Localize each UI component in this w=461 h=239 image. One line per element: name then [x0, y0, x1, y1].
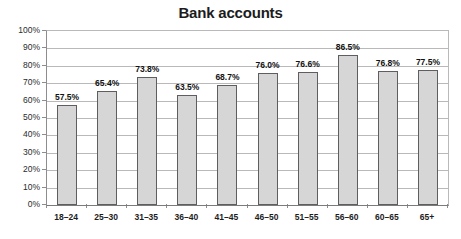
bar-slot: 68.7%	[207, 31, 247, 205]
y-axis-tick-label: 0%	[0, 200, 40, 209]
bar-value-label: 63.5%	[161, 82, 213, 92]
bar-value-label: 65.4%	[81, 78, 133, 88]
bar-slot: 76.6%	[288, 31, 328, 205]
bar-value-label: 76.6%	[282, 59, 334, 69]
bar[interactable]	[378, 71, 398, 205]
bar-chart: Bank accounts 0%10%20%30%40%50%60%70%80%…	[0, 0, 461, 239]
y-axis-tick-label: 30%	[0, 148, 40, 157]
y-axis-tick-label: 10%	[0, 183, 40, 192]
y-axis-tick-label: 40%	[0, 130, 40, 139]
bar-slot: 76.0%	[248, 31, 288, 205]
bar[interactable]	[137, 77, 157, 205]
bar[interactable]	[217, 85, 237, 205]
bar[interactable]	[338, 55, 358, 206]
y-axis-tick-label: 50%	[0, 113, 40, 122]
bar-slot: 57.5%	[47, 31, 87, 205]
bar-slot: 86.5%	[328, 31, 368, 205]
bar[interactable]	[298, 72, 318, 205]
y-axis-tick-label: 20%	[0, 165, 40, 174]
bar-value-label: 77.5%	[402, 57, 454, 67]
bar-slot: 65.4%	[87, 31, 127, 205]
bar[interactable]	[57, 105, 77, 205]
y-axis-tick-label: 80%	[0, 61, 40, 70]
bar[interactable]	[97, 91, 117, 205]
bar-slot: 63.5%	[167, 31, 207, 205]
bar-value-label: 86.5%	[322, 42, 374, 52]
y-axis-tick-label: 70%	[0, 78, 40, 87]
bar[interactable]	[258, 73, 278, 205]
y-axis-tick-label: 60%	[0, 96, 40, 105]
bar[interactable]	[177, 95, 197, 205]
bar-slot: 77.5%	[408, 31, 448, 205]
bar-slot: 73.8%	[127, 31, 167, 205]
plot-area: 57.5%65.4%73.8%63.5%68.7%76.0%76.6%86.5%…	[46, 30, 449, 206]
bar-value-label: 68.7%	[201, 72, 253, 82]
bar[interactable]	[418, 70, 438, 205]
chart-title: Bank accounts	[0, 4, 461, 21]
x-axis-tick-label: 65+	[401, 212, 453, 222]
y-axis-tick-label: 100%	[0, 26, 40, 35]
bar-value-label: 57.5%	[41, 92, 93, 102]
bar-value-label: 73.8%	[121, 64, 173, 74]
y-axis-tick-label: 90%	[0, 43, 40, 52]
